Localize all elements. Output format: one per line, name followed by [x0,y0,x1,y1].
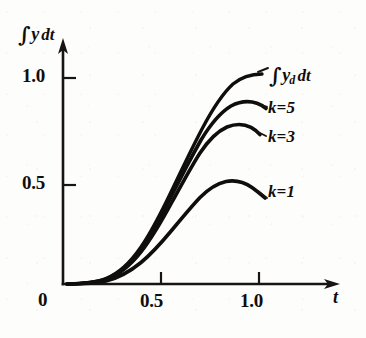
leader-line-reference [258,68,268,72]
x-tick-label-0.5: 0.5 [140,291,163,310]
curve-k5 [67,102,266,284]
curve-label-reference-differential: dt [297,66,310,85]
integral-sign-icon: ∫ [269,63,281,88]
curve-label-k1: k=1 [268,183,295,200]
curve-label-k5: k=5 [268,99,295,116]
y-axis-variable: y [31,24,39,44]
y-tick-label-1.0: 1.0 [22,66,45,85]
x-axis-title: t [333,288,338,306]
figure-root: ∫ydt t 1.0 0.5 0 0.5 1.0 ∫yddt k=5 k=3 k… [0,0,366,338]
curve-label-reference-subscript: d [289,73,295,87]
y-tick-label-0.5: 0.5 [22,173,45,192]
origin-label: 0 [38,290,48,309]
plot-canvas [0,0,366,338]
integral-sign-icon: ∫ [18,22,30,47]
y-axis-differential: dt [41,25,54,44]
curve-label-k3: k=3 [268,128,295,145]
curve-k1 [67,181,265,284]
x-tick-label-1.0: 1.0 [240,291,263,310]
curve-label-reference: ∫yddt [269,63,311,86]
y-axis-title: ∫ydt [18,22,54,43]
